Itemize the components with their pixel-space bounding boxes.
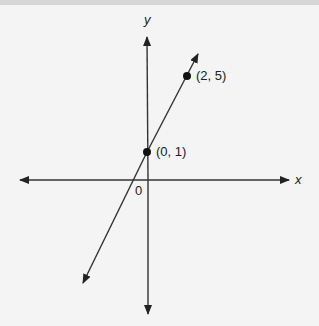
origin-label: 0	[135, 183, 142, 198]
graph-line-up	[147, 54, 198, 152]
x-axis-label: x	[295, 172, 302, 187]
point-0-1	[143, 148, 151, 156]
coordinate-plane	[0, 0, 319, 326]
y-axis	[147, 37, 148, 180]
graph-line-down	[83, 152, 147, 283]
y-axis-label: y	[144, 12, 151, 27]
point-2-5	[183, 72, 191, 80]
point-label-2-5: (2, 5)	[196, 68, 226, 83]
point-label-0-1: (0, 1)	[156, 144, 186, 159]
